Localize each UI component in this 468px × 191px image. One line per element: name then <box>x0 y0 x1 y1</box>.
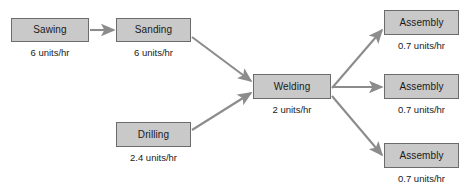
edge-welding-to-assembly-3 <box>332 96 382 155</box>
process-flow-diagram: Sawing 6 units/hr Sanding 6 units/hr Dri… <box>0 0 468 191</box>
edge-welding-to-assembly-1 <box>332 30 382 88</box>
node-assembly-1-box[interactable]: Assembly <box>384 10 459 35</box>
node-sawing-box[interactable]: Sawing <box>11 18 89 42</box>
node-assembly-3-rate: 0.7 units/hr <box>384 174 459 184</box>
node-drilling-label: Drilling <box>138 130 169 140</box>
node-assembly-2-box[interactable]: Assembly <box>384 74 459 99</box>
node-welding-label: Welding <box>274 82 311 92</box>
node-assembly-2-rate: 0.7 units/hr <box>384 105 459 115</box>
node-sanding[interactable]: Sanding 6 units/hr <box>116 18 191 42</box>
node-drilling-box[interactable]: Drilling <box>116 122 191 147</box>
node-assembly-3-box[interactable]: Assembly <box>384 143 459 168</box>
node-sanding-box[interactable]: Sanding <box>116 18 191 42</box>
node-welding-rate: 2 units/hr <box>253 105 331 115</box>
node-sawing-rate: 6 units/hr <box>11 48 89 58</box>
node-sawing[interactable]: Sawing 6 units/hr <box>11 18 89 42</box>
edge-drilling-to-welding <box>192 93 251 130</box>
edge-sanding-to-welding <box>192 37 251 81</box>
node-drilling-rate: 2.4 units/hr <box>116 153 191 163</box>
node-assembly-2-label: Assembly <box>399 82 443 92</box>
node-assembly-1-rate: 0.7 units/hr <box>384 41 459 51</box>
node-welding-box[interactable]: Welding <box>253 74 331 99</box>
node-assembly-3[interactable]: Assembly 0.7 units/hr <box>384 143 459 168</box>
node-assembly-3-label: Assembly <box>399 151 443 161</box>
node-sanding-rate: 6 units/hr <box>116 48 191 58</box>
node-sawing-label: Sawing <box>33 25 66 35</box>
node-assembly-1[interactable]: Assembly 0.7 units/hr <box>384 10 459 35</box>
node-sanding-label: Sanding <box>135 25 172 35</box>
node-welding[interactable]: Welding 2 units/hr <box>253 74 331 99</box>
node-assembly-2[interactable]: Assembly 0.7 units/hr <box>384 74 459 99</box>
node-drilling[interactable]: Drilling 2.4 units/hr <box>116 122 191 147</box>
node-assembly-1-label: Assembly <box>399 18 443 28</box>
